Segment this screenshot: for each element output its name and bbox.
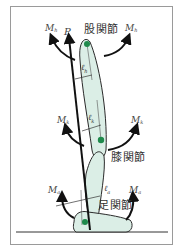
moment-label-ankle-right: Ma	[129, 186, 141, 195]
moment-label-knee-left: Mk	[57, 116, 69, 125]
knee-joint-label: 膝関節	[111, 152, 146, 163]
moment-label-hip-left: Mh	[45, 24, 57, 33]
hip-joint-dot	[84, 41, 90, 47]
knee-joint-dot	[98, 137, 104, 143]
moment-label-hip-right: Mh	[125, 24, 137, 33]
leg-diagram	[0, 0, 183, 251]
ankle-joint-label: 足関節	[98, 200, 133, 211]
moment-label-knee-right: Mk	[131, 116, 143, 125]
moment-arrow-hip-right	[104, 38, 128, 56]
lever-label-knee: ℓk	[88, 114, 94, 124]
lever-label-ankle: ℓa	[104, 185, 110, 195]
ankle-joint-dot	[82, 219, 88, 225]
lever-label-hip: ℓh	[81, 64, 88, 74]
force-label-p: P	[64, 27, 71, 37]
hip-joint-label: 股関節	[84, 24, 119, 35]
moment-arrow-ankle-left	[62, 196, 74, 218]
moment-arrow-knee-right	[108, 128, 136, 150]
moment-label-ankle-left: Ma	[48, 186, 60, 195]
